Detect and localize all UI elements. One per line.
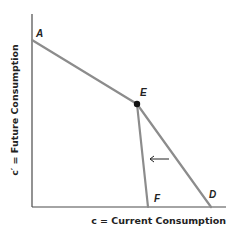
segment-e-d xyxy=(137,104,211,207)
budget-constraint-diagram: A E F D c = Current Consumption c′ = Fut… xyxy=(0,0,237,237)
point-label-e: E xyxy=(140,87,147,98)
shift-arrow-left-icon xyxy=(150,156,169,162)
point-label-f: F xyxy=(154,193,161,204)
x-axis-label: c = Current Consumption xyxy=(91,215,226,226)
y-axis-label: c′ = Future Consumption xyxy=(9,44,20,176)
segment-e-f xyxy=(137,104,148,207)
point-label-a: A xyxy=(35,28,43,39)
segment-a-e xyxy=(32,40,137,104)
point-label-d: D xyxy=(209,189,216,200)
point-e-marker xyxy=(134,101,140,107)
